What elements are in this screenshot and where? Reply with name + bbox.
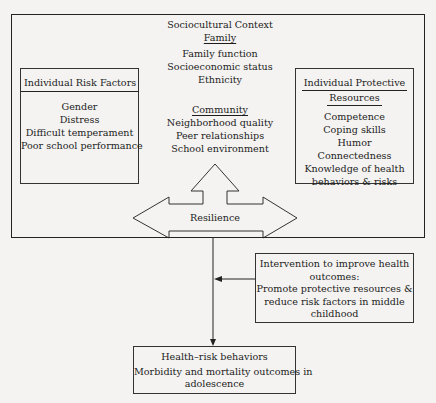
down-arrowhead-icon [210, 339, 216, 346]
protective-item: Coping skills [296, 123, 413, 136]
health-outcomes-box: Health–risk behaviors Morbidity and mort… [133, 346, 296, 394]
outcome-line3: adolescence [134, 378, 295, 391]
risk-factor-item: Distress [21, 113, 138, 126]
protective-list: Competence Coping skills Humor Connected… [296, 110, 413, 188]
intervention-line1: Intervention to improve health [256, 258, 413, 271]
community-item: Peer relationships [150, 129, 290, 142]
intervention-line2: outcomes: [256, 271, 413, 284]
protective-resources-box: Individual Protective Resources Competen… [295, 68, 414, 184]
risk-factor-item: Gender [21, 100, 138, 113]
risk-factors-list: Gender Distress Difficult temperament Po… [21, 100, 138, 152]
intervention-line3: Promote protective resources & [256, 283, 413, 296]
protective-item: behaviors & risks [296, 175, 413, 188]
protective-item: Knowledge of health [296, 162, 413, 175]
community-heading: Community [150, 103, 290, 116]
risk-factor-item: Poor school performance [21, 139, 138, 152]
intervention-line4: reduce risk factors in middle [256, 296, 413, 309]
family-item: Ethnicity [150, 73, 290, 86]
protective-item: Competence [296, 110, 413, 123]
protective-item: Humor [296, 136, 413, 149]
risk-factor-item: Difficult temperament [21, 126, 138, 139]
family-heading: Family [150, 31, 290, 44]
outcome-line2: Morbidity and mortality outcomes in [134, 366, 295, 379]
sociocultural-title: Sociocultural Context [150, 18, 290, 31]
protective-heading: Individual Protective Resources [296, 76, 413, 106]
protective-item: Connectedness [296, 149, 413, 162]
family-item: Socioeconomic status [150, 60, 290, 73]
community-item: School environment [150, 142, 290, 155]
outcome-line1: Health–risk behaviors [134, 351, 295, 364]
resilience-label: Resilience [175, 211, 255, 224]
sociocultural-column: Sociocultural Context Family Family func… [150, 18, 290, 155]
protective-heading-line2: Resources [327, 91, 381, 106]
intervention-box: Intervention to improve health outcomes:… [255, 253, 414, 323]
risk-factors-heading: Individual Risk Factors [21, 76, 139, 92]
community-item: Neighborhood quality [150, 116, 290, 129]
intervention-line5: childhood [256, 308, 413, 321]
protective-heading-line1: Individual Protective [302, 76, 408, 91]
left-arrowhead-icon [214, 276, 222, 282]
family-item: Family function [150, 47, 290, 60]
risk-factors-box: Individual Risk Factors Gender Distress … [20, 68, 139, 184]
